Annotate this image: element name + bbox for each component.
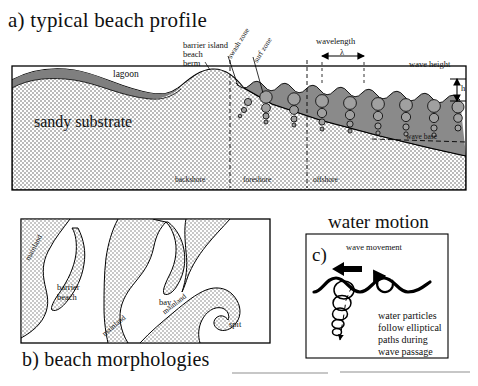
label-wave-movement: wave movement [346,243,402,252]
label-lambda-symbol: λ [340,48,344,57]
panel-c-letter: c) [312,245,327,266]
label-sandy-substrate: sandy substrate [34,113,132,130]
label-offshore: offshore [313,176,338,184]
panel-b-title: b) beach morphologies [22,349,209,371]
caption-line-1: water particles [378,310,437,322]
cropped-caption-row [232,371,470,374]
label-wave-height-symbol: h [461,84,465,93]
label-wavelength: wavelength [316,37,355,46]
wave-profile-curve [314,278,430,292]
morphology-mainland-left [21,219,70,338]
label-wave-height: wave height [409,60,450,69]
morphology-bay-headland [163,222,184,295]
morphology-bay-right-mass [182,219,230,292]
label-foreshore: foreshore [243,176,271,184]
label-barrier-beach-line1: barrier [57,283,80,292]
label-barrier-beach-line2: beach [57,293,77,302]
beach-profile-figure: a) typical beach profile lagoon barrier … [0,0,478,386]
label-wave-base: wave base [406,133,437,141]
wave-movement-arrow [332,262,362,276]
panel-c-heading: water motion [328,212,429,233]
caption-line-3: paths during [378,334,428,346]
label-berm: berm [183,59,200,68]
caption-line-4: wave passage [378,346,433,358]
panel-b-content [21,219,240,343]
caption-line-2: follow elliptical [378,322,442,334]
label-lagoon: lagoon [113,69,139,79]
panel-a-title: a) typical beach profile [8,9,207,32]
morphology-mainland-right [140,288,240,343]
label-backshore: backshore [175,176,205,184]
label-spit: spit [229,320,241,329]
